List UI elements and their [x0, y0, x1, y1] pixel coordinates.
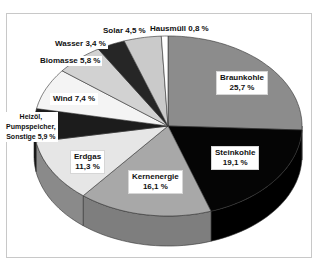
label-solar: Solar 4,5 % — [101, 26, 148, 36]
label-steinkohle-name: Steinkohle — [215, 148, 255, 158]
label-heizoel-line3: Sonstige 5,9 % — [6, 132, 56, 142]
label-wasser-text: Wasser 3,4 % — [55, 39, 106, 48]
label-hausmuell: Hausmüll 0,8 % — [148, 24, 211, 34]
label-biomasse-text: Biomasse 5,8 % — [40, 56, 100, 65]
label-heizoel-line1: Heizöl, — [6, 112, 56, 122]
label-heizoel: Heizöl, Pumpspeicher, Sonstige 5,9 % — [4, 112, 58, 142]
label-braunkohle: Braunkohle 25,7 % — [216, 71, 268, 95]
label-erdgas-name: Erdgas — [74, 152, 101, 162]
label-steinkohle-value: 19,1 % — [215, 158, 255, 168]
label-wind-text: Wind 7,4 % — [53, 94, 95, 103]
label-kernenergie-value: 16,1 % — [132, 182, 179, 192]
label-wasser: Wasser 3,4 % — [53, 39, 108, 49]
label-biomasse: Biomasse 5,8 % — [38, 56, 102, 66]
label-hausmuell-text: Hausmüll 0,8 % — [150, 24, 209, 33]
label-heizoel-line2: Pumpspeicher, — [6, 122, 56, 132]
label-solar-text: Solar 4,5 % — [103, 26, 146, 35]
label-braunkohle-value: 25,7 % — [220, 83, 264, 93]
label-erdgas-value: 11,3 % — [74, 162, 101, 172]
label-kernenergie: Kernenergie 16,1 % — [128, 170, 183, 194]
label-kernenergie-name: Kernenergie — [132, 172, 179, 182]
label-erdgas: Erdgas 11,3 % — [70, 150, 105, 174]
label-wind: Wind 7,4 % — [50, 93, 98, 105]
label-braunkohle-name: Braunkohle — [220, 73, 264, 83]
label-steinkohle: Steinkohle 19,1 % — [211, 146, 259, 170]
